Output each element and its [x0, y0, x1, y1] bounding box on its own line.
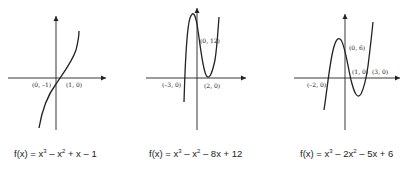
point-label: (–3, 0) — [162, 81, 181, 88]
point-label: (–2, 0) — [307, 81, 326, 88]
equation-3: f(x) = x3 – 2x2 – 5x + 6 — [300, 148, 393, 159]
equation-1: f(x) = x3 – x2 + x – 1 — [14, 148, 97, 159]
point-label: (1, 0) — [66, 81, 82, 88]
graph-2: (–3, 0) (0, 12) (2, 0) — [136, 0, 272, 130]
equation-2: f(x) = x3 – x2 – 8x + 12 — [149, 148, 242, 159]
point-label: (0, 6) — [349, 44, 365, 51]
graph-1: (0, –1) (1, 0) — [0, 0, 136, 130]
graph-2-plot — [136, 0, 272, 130]
point-label: (0, 12) — [200, 37, 220, 44]
graph-3-plot — [272, 0, 408, 130]
graph-1-plot — [0, 0, 136, 130]
point-label: (2, 0) — [204, 82, 220, 89]
point-label: (1, 0) — [352, 68, 368, 75]
point-label: (3, 0) — [372, 68, 388, 75]
graph-3: (–2, 0) (0, 6) (1, 0) (3, 0) — [272, 0, 408, 130]
point-label: (0, –1) — [32, 81, 51, 88]
